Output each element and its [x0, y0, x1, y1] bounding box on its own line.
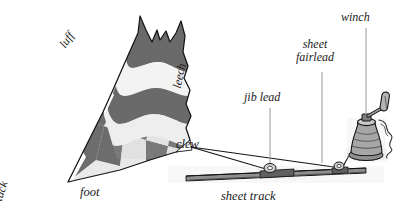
- label-clew: clew: [176, 138, 199, 151]
- label-winch: winch: [341, 11, 370, 24]
- label-sheet-fairlead: sheet fairlead: [296, 38, 334, 63]
- sail: [68, 16, 192, 182]
- label-sheet-track: sheet track: [221, 190, 276, 203]
- diagram-illustration: [0, 0, 403, 213]
- label-foot: foot: [80, 186, 99, 199]
- label-jib-lead: jib lead: [244, 91, 280, 104]
- diagram-canvas: luff leech tack foot clew jib lead sheet…: [0, 0, 403, 213]
- sheet-fairlead: [332, 162, 348, 174]
- jib-lead-car: [260, 164, 294, 179]
